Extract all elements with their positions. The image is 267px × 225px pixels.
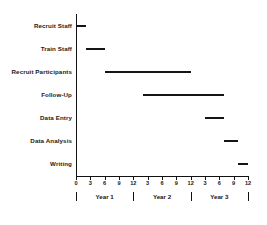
plot-area: [76, 14, 248, 176]
x-axis-tick-label: 6: [218, 181, 221, 187]
task-label: Data Entry: [0, 115, 72, 121]
x-axis-tick-label: 12: [130, 181, 136, 187]
gantt-bar: [205, 117, 224, 119]
year-label: Year 2: [153, 194, 171, 200]
gantt-bar: [143, 94, 224, 96]
x-axis-tick-label: 12: [245, 181, 251, 187]
x-axis-tick-label: 9: [175, 181, 178, 187]
year-label: Year 1: [96, 194, 114, 200]
x-axis-tick-label: 9: [117, 181, 120, 187]
x-axis-tick-label: 9: [232, 181, 235, 187]
year-label: Year 3: [210, 194, 228, 200]
x-axis-tick-label: 12: [188, 181, 194, 187]
task-label: Recruit Participants: [0, 69, 72, 75]
gantt-bar: [238, 163, 248, 165]
year-separator: [191, 192, 192, 201]
task-label: Data Analysis: [0, 138, 72, 144]
task-label: Writing: [0, 161, 72, 167]
year-separator: [76, 192, 77, 201]
y-axis-line: [76, 14, 77, 176]
year-separator: [133, 192, 134, 201]
task-label: Train Staff: [0, 46, 72, 52]
task-label: Follow-Up: [0, 92, 72, 98]
task-label: Recruit Staff: [0, 22, 72, 28]
gantt-bar: [105, 71, 191, 73]
x-axis-tick-label: 6: [103, 181, 106, 187]
x-axis-tick-label: 3: [146, 181, 149, 187]
x-axis-tick-label: 6: [160, 181, 163, 187]
gantt-bar: [224, 140, 238, 142]
gantt-bar: [76, 25, 86, 27]
gantt-chart-figure: Recruit StaffTrain StaffRecruit Particip…: [0, 0, 267, 225]
year-separator: [248, 192, 249, 201]
task-label-column: Recruit StaffTrain StaffRecruit Particip…: [0, 0, 72, 225]
x-axis-tick-label: 3: [203, 181, 206, 187]
x-axis-tick-label: 0: [74, 181, 77, 187]
x-axis-tick-label: 3: [89, 181, 92, 187]
gantt-bar: [86, 48, 105, 50]
